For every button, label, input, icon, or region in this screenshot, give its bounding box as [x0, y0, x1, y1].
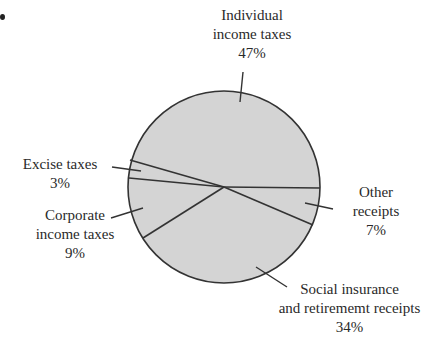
- label-other-receipts: Other receipts 7%: [336, 183, 416, 240]
- label-social-insurance: Social insurance and retirememt receipts…: [262, 280, 437, 337]
- label-excise-taxes: Excise taxes 3%: [10, 155, 110, 193]
- label-individual-income-taxes: Individual income taxes 47%: [196, 6, 308, 63]
- label-corporate-income-taxes: Corporate income taxes 9%: [22, 206, 128, 263]
